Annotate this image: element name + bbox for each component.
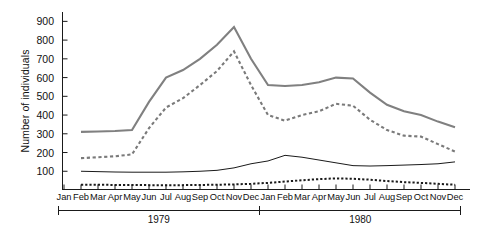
x-axis-year-groups: 19791980 — [0, 206, 483, 228]
series-line-juveniles — [81, 155, 455, 172]
y-axis-tick-label: 600 — [20, 73, 54, 83]
year-label: 1980 — [330, 214, 390, 225]
series-line-young — [81, 178, 455, 185]
y-axis-tick-label: 900 — [20, 16, 54, 26]
y-axis-tick-label: 800 — [20, 35, 54, 45]
y-axis-tick-label: 300 — [20, 129, 54, 139]
year-bracket — [0, 206, 483, 228]
chart-figure: Number of individuals 100200300400500600… — [0, 0, 483, 228]
y-axis-tick-label: 500 — [20, 91, 54, 101]
series-line-adults — [81, 51, 455, 158]
y-axis-tick-label: 400 — [20, 110, 54, 120]
y-axis-tick-label: 100 — [20, 166, 54, 176]
y-axis-tick-label: 200 — [20, 148, 54, 158]
chart-svg — [62, 12, 470, 190]
x-axis-tick-labels: JanFebMarAprMayJunJulAugSepOctNovDecJanF… — [0, 192, 483, 206]
y-axis-tick-label: 700 — [20, 54, 54, 64]
plot-area — [62, 12, 470, 190]
series-line-total — [81, 27, 455, 132]
x-axis-tick-label: Dec — [442, 192, 468, 203]
year-label: 1979 — [129, 214, 189, 225]
